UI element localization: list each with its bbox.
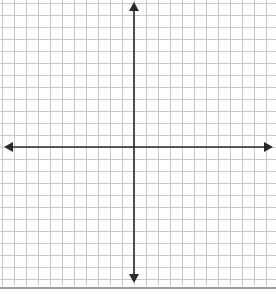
y-axis-bottom-arrow-icon (129, 274, 139, 283)
coordinate-grid-svg (0, 0, 276, 295)
axes (4, 2, 273, 283)
x-axis-left-arrow-icon (4, 142, 13, 152)
grid-lines (0, 0, 276, 286)
x-axis-right-arrow-icon (264, 142, 273, 152)
coordinate-plane (0, 0, 276, 295)
